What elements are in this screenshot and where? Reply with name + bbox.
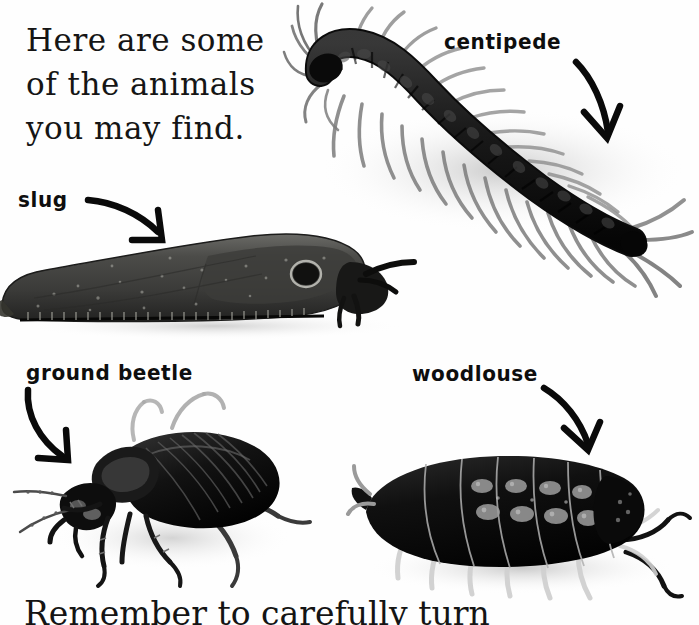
label-slug: slug [18,188,68,213]
slug-photo [0,222,424,340]
worksheet-page: Here are some of the animals you may fin… [0,0,699,625]
label-centipede: centipede [444,30,561,55]
arrow-to-ground-beetle-icon [22,382,112,482]
arrow-to-centipede-icon [562,52,662,157]
intro-line-3: you may find. [26,106,306,150]
intro-line-1: Here are some [26,18,306,62]
arrow-to-woodlouse-icon [538,382,638,477]
woodlouse-photo [352,420,692,598]
intro-text-block: Here are some of the animals you may fin… [26,18,306,150]
footer-instruction-text: Remember to carefully turn [24,594,684,625]
intro-line-2: of the animals [26,62,306,106]
arrow-to-slug-icon [84,188,204,254]
label-woodlouse: woodlouse [412,362,538,387]
